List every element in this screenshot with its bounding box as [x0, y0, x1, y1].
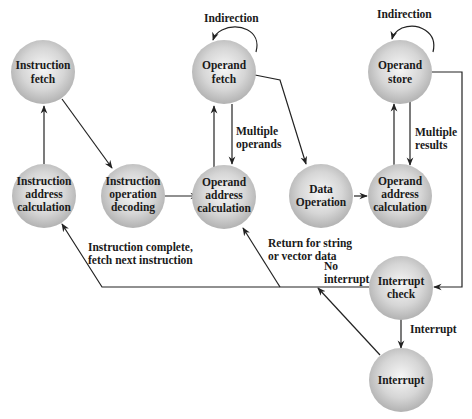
edge-of-to-do: [255, 75, 306, 164]
label-multiple-operands-1: Multiple: [236, 125, 278, 138]
label-no-interrupt-1: No: [324, 260, 338, 272]
node-label: address: [25, 188, 63, 200]
node-instruction-fetch: Instruction fetch: [11, 40, 75, 104]
label-no-interrupt-2: interrupt: [324, 273, 370, 286]
node-label: Operand: [378, 59, 423, 72]
node-data-operation: Data Operation: [289, 164, 353, 228]
instruction-cycle-diagram: Instruction fetch Instruction address ca…: [0, 0, 472, 419]
label-multiple-results-1: Multiple: [415, 126, 457, 139]
node-label: Data: [309, 183, 333, 195]
node-label: Interrupt: [378, 374, 425, 387]
edge-os-to-ic: [432, 72, 462, 287]
label-interrupt: Interrupt: [410, 323, 457, 336]
node-operand-address-calculation-out: Operand address calculation: [368, 164, 432, 228]
node-label: Instruction: [106, 175, 162, 187]
node-label: Operand: [378, 175, 423, 188]
node-operand-store: Operand store: [368, 40, 432, 104]
node-label: Operation: [296, 196, 347, 209]
node-interrupt-check: Interrupt check: [369, 256, 433, 320]
node-label: Instruction: [16, 59, 72, 71]
label-instruction-complete-2: fetch next instruction: [88, 254, 193, 266]
node-label: operation: [109, 188, 157, 201]
node-operand-address-calculation-in: Operand address calculation: [192, 165, 256, 229]
node-label: Operand: [202, 176, 247, 189]
node-label: fetch: [212, 73, 237, 85]
node-label: store: [388, 73, 412, 85]
node-label: decoding: [111, 201, 155, 214]
label-instruction-complete-1: Instruction complete,: [88, 241, 193, 254]
node-label: calculation: [373, 201, 427, 213]
node-label: calculation: [17, 201, 71, 213]
label-indirection-fetch: Indirection: [204, 12, 259, 24]
node-interrupt: Interrupt: [369, 348, 433, 412]
label-indirection-store: Indirection: [377, 8, 432, 20]
edge-if-to-iod: [62, 99, 112, 168]
node-label: fetch: [31, 73, 56, 85]
node-label: Interrupt: [378, 275, 425, 288]
node-label: address: [381, 188, 419, 200]
node-label: Operand: [202, 59, 247, 72]
node-operand-fetch: Operand fetch: [192, 40, 256, 104]
node-label: Instruction: [17, 175, 73, 187]
node-label: address: [205, 189, 243, 201]
node-instruction-operation-decoding: Instruction operation decoding: [101, 164, 165, 228]
label-multiple-results-2: results: [415, 139, 448, 151]
node-label: check: [387, 288, 416, 300]
label-return-string-1: Return for string: [268, 237, 352, 250]
node-label: calculation: [197, 202, 251, 214]
label-multiple-operands-2: operands: [236, 138, 282, 151]
node-instruction-address-calculation: Instruction address calculation: [12, 164, 76, 228]
